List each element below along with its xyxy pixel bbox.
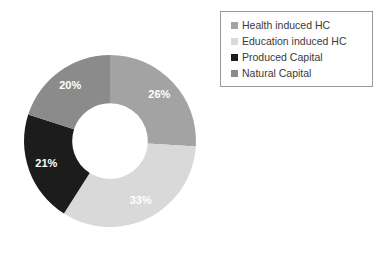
legend-item[interactable]: Education induced HC [231,33,366,49]
legend-swatch-icon [231,38,238,45]
pie-slice[interactable] [64,143,196,227]
legend-item-label: Natural Capital [242,65,311,81]
legend-item[interactable]: Produced Capital [231,49,366,65]
legend-item-label: Health induced HC [242,17,330,33]
donut-slices [24,55,196,227]
pie-slice-label: 26% [148,88,170,100]
legend-item[interactable]: Health induced HC [231,17,366,33]
donut-chart: 26%33%21%20% [0,0,220,253]
legend-item[interactable]: Natural Capital [231,65,366,81]
chart-figure: 26%33%21%20% Health induced HCEducation … [0,0,392,253]
legend-swatch-icon [231,70,238,77]
legend-swatch-icon [231,22,238,29]
pie-slice-label: 20% [59,79,81,91]
legend-swatch-icon [231,54,238,61]
legend-item-label: Produced Capital [242,49,323,65]
pie-slice-label: 33% [130,194,152,206]
pie-slice[interactable] [110,55,196,146]
pie-slice-label: 21% [35,157,57,169]
legend-item-label: Education induced HC [242,33,346,49]
donut-chart-area: 26%33%21%20% [0,0,220,253]
chart-legend: Health induced HCEducation induced HCPro… [220,11,373,87]
pie-slice[interactable] [28,55,110,129]
